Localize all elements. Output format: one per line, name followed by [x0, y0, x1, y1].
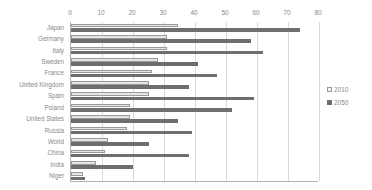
bar-2050-poland [71, 108, 232, 112]
x-axis-tick-label: 70 [283, 8, 290, 17]
bar-2050-niger [71, 177, 85, 181]
bar-2010-sweden [71, 58, 158, 62]
x-axis-tick-label: 40 [190, 8, 197, 17]
bar-2050-sweden [71, 62, 198, 66]
y-axis-category-label: United States [26, 115, 64, 123]
y-axis-category-label: Sweden [41, 58, 64, 66]
bar-2050-russia [71, 131, 192, 135]
bar-2010-india [71, 161, 96, 165]
x-axis-tick-label: 20 [128, 8, 135, 17]
y-axis-category-label: Niger [49, 172, 64, 180]
y-axis-category-label: World [48, 138, 64, 146]
x-axis-tick-label: 60 [252, 8, 259, 17]
legend-item[interactable]: 2010 [327, 84, 348, 95]
y-axis-category-label: Germany [38, 35, 64, 43]
legend-swatch-2050-icon [327, 100, 332, 105]
bar-2050-world [71, 142, 149, 146]
y-axis-category-label: Japan [47, 24, 64, 32]
bar-2010-world [71, 138, 108, 142]
chart-legend: 20102050 [327, 84, 348, 110]
bar-2050-china [71, 154, 189, 158]
legend-swatch-2010-icon [327, 87, 332, 92]
bar-2010-united-states [71, 115, 130, 119]
y-axis-category-label: United Kingdom [19, 81, 64, 89]
bar-2050-spain [71, 97, 254, 101]
y-axis-category-label: Italy [52, 47, 64, 55]
x-axis-tick-label: 30 [159, 8, 166, 17]
bar-2010-poland [71, 104, 130, 108]
bar-2050-india [71, 165, 133, 169]
bar-2010-italy [71, 47, 167, 51]
bar-2010-france [71, 70, 152, 74]
bar-2010-spain [71, 92, 149, 96]
bar-2010-russia [71, 127, 127, 131]
y-axis-category-label: Poland [44, 104, 64, 112]
bar-2050-germany [71, 39, 251, 43]
y-axis-category-label: France [44, 69, 64, 77]
bar-2010-niger [71, 172, 83, 176]
bar-2050-italy [71, 51, 263, 55]
y-axis-category-labels: JapanGermanyItalySwedenFranceUnited King… [0, 22, 67, 182]
bar-2010-japan [71, 24, 178, 28]
bars-layer [71, 22, 318, 181]
y-axis-category-label: Russia [45, 127, 64, 135]
x-axis-tick-label: 50 [221, 8, 228, 17]
x-axis-tick-label: 0 [68, 8, 72, 17]
bar-2050-france [71, 74, 217, 78]
bar-2010-united-kingdom [71, 81, 149, 85]
legend-label: 2050 [334, 99, 348, 107]
x-axis-tick-labels: 01020304050607080 [70, 8, 318, 20]
bar-2050-japan [71, 28, 300, 32]
y-axis-category-label: Spain [48, 92, 64, 100]
legend-label: 2010 [334, 86, 348, 94]
bar-2010-germany [71, 35, 167, 39]
bar-2050-united-kingdom [71, 85, 189, 89]
bar-2010-china [71, 150, 105, 154]
y-axis-category-label: India [50, 161, 64, 169]
legend-item[interactable]: 2050 [327, 97, 348, 108]
bar-2050-united-states [71, 119, 178, 123]
y-axis-category-label: China [48, 149, 64, 157]
bar-chart: 01020304050607080 JapanGermanyItalySwede… [0, 0, 372, 190]
x-axis-tick-label: 10 [97, 8, 104, 17]
x-axis-tick-label: 80 [314, 8, 321, 17]
gridline [319, 22, 320, 181]
plot-area [70, 22, 318, 182]
